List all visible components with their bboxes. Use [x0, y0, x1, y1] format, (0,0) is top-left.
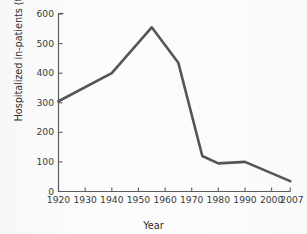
data-series-line	[59, 27, 291, 181]
xtick-label: 1990	[233, 194, 257, 205]
ytick-label: 200	[36, 126, 54, 137]
xtick-label: 1930	[74, 194, 98, 205]
xtick-label: 1950	[127, 194, 151, 205]
x-axis-title: Year	[0, 214, 307, 233]
x-axis-tick-labels: 1920 1930 1940 1950 1960 1970 1980 1990 …	[47, 194, 304, 205]
ytick-label: 100	[36, 156, 54, 167]
ytick-label: 400	[36, 67, 54, 78]
axis-frame	[59, 14, 291, 192]
y-axis-title-text: Hospitalized in-patients (thousands)	[13, 0, 24, 122]
line-chart-plot: 0 100 200 300 400 500 600 1920 1930 1940	[0, 0, 307, 234]
xtick-label: 1970	[180, 194, 204, 205]
xtick-label: 1960	[153, 194, 177, 205]
xtick-label: 1980	[207, 194, 231, 205]
ytick-label: 300	[36, 97, 54, 108]
xtick-label: 1940	[100, 194, 124, 205]
xtick-label: 1920	[47, 194, 71, 205]
ytick-label: 500	[36, 38, 54, 49]
ytick-label: 600	[36, 8, 54, 19]
y-axis-title: Hospitalized in-patients (thousands)	[7, 0, 26, 122]
xtick-label: 2007	[280, 194, 304, 205]
x-axis-title-text: Year	[143, 220, 164, 231]
y-axis-tick-labels: 0 100 200 300 400 500 600	[36, 8, 54, 197]
figure-container: 0 100 200 300 400 500 600 1920 1930 1940	[0, 0, 307, 234]
